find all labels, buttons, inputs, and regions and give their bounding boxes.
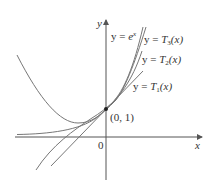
- point-label: (0, 1): [110, 111, 134, 124]
- curve-T3: [36, 27, 143, 170]
- y-axis-label: y: [96, 17, 102, 29]
- x-axis-label: x: [194, 139, 200, 151]
- taylor-polynomial-diagram: y x 0 (0, 1) y = ex y = T3(x) y = T2(x) …: [0, 0, 210, 185]
- label-T1: y = T1(x): [133, 80, 172, 94]
- origin-label: 0: [98, 139, 104, 151]
- point-0-1: [104, 107, 108, 111]
- label-T2: y = T2(x): [142, 53, 181, 67]
- label-exp: y = ex: [111, 30, 137, 42]
- label-T3: y = T3(x): [144, 33, 183, 47]
